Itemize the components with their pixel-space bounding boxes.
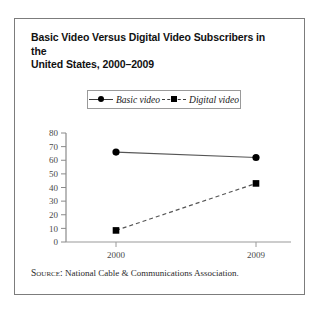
legend-entry-digital-video: Digital video <box>162 95 239 105</box>
figure-title: Basic Video Versus Digital Video Subscri… <box>31 31 283 72</box>
data-point-marker <box>113 227 120 234</box>
data-point-marker <box>112 148 119 155</box>
data-series-layer <box>112 148 259 233</box>
y-tick-label: 0 <box>54 237 59 247</box>
y-tick-label: 40 <box>49 183 59 193</box>
y-tick-label: 20 <box>49 210 59 220</box>
data-point-marker <box>253 180 260 187</box>
legend-label-basic-video: Basic video <box>116 95 160 105</box>
source-note: Source: National Cable & Communications … <box>31 268 289 278</box>
legend-label-digital-video: Digital video <box>189 95 239 105</box>
y-axis-ticks <box>61 133 66 242</box>
legend-entry-basic-video: Basic video <box>89 95 160 105</box>
series-basic-video <box>112 148 259 161</box>
y-tick-label: 70 <box>49 142 59 152</box>
figure-title-line-1: Basic Video Versus Digital Video Subscri… <box>31 31 283 58</box>
y-tick-label: 50 <box>49 169 59 179</box>
series-line <box>116 183 256 230</box>
y-tick-label: 30 <box>49 196 59 206</box>
y-tick-label: 60 <box>49 155 59 165</box>
source-label: Source: <box>31 268 63 278</box>
digital-video-marker-icon <box>162 95 186 104</box>
basic-video-marker-icon <box>89 95 113 104</box>
x-tick-label: 2009 <box>247 250 266 260</box>
figure-frame: Basic Video Versus Digital Video Subscri… <box>14 18 305 295</box>
source-text: National Cable & Communications Associat… <box>63 268 239 278</box>
figure-title-line-2: United States, 2000–2009 <box>31 58 283 72</box>
series-digital-video <box>113 180 260 234</box>
x-axis-tick-labels: 20002009 <box>107 250 266 260</box>
chart-legend: Basic video Digital video <box>87 90 241 109</box>
data-point-marker <box>252 154 259 161</box>
y-axis-tick-labels: 80706050403020100 <box>49 128 59 247</box>
y-tick-label: 80 <box>49 128 59 138</box>
x-axis-ticks <box>116 242 256 247</box>
series-line <box>116 152 256 157</box>
y-axis: 80706050403020100 <box>49 128 66 247</box>
x-axis: 20002009 <box>66 242 291 260</box>
x-tick-label: 2000 <box>107 250 126 260</box>
y-tick-label: 10 <box>49 224 59 234</box>
